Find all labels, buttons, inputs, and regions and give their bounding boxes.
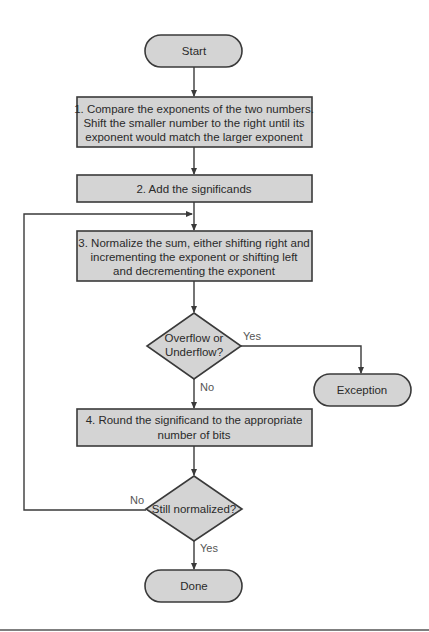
exception-terminator: Exception xyxy=(314,374,411,406)
decision1-line2: Underflow? xyxy=(165,346,223,358)
exception-label: Exception xyxy=(337,384,388,396)
step1-line3: exponent would match the larger exponent xyxy=(85,131,303,143)
step4-line1: 4. Round the significand to the appropri… xyxy=(86,414,303,426)
step1-line1: 1. Compare the exponents of the two numb… xyxy=(74,103,314,115)
decision-overflow: Overflow or Underflow? xyxy=(147,313,241,379)
decision1-no-label: No xyxy=(200,381,214,393)
decision1-line1: Overflow or xyxy=(165,332,224,344)
decision2-label: Still normalized? xyxy=(152,503,236,515)
decision1-yes-label: Yes xyxy=(243,330,261,342)
step1-line2: Shift the smaller number to the right un… xyxy=(83,117,304,129)
start-terminator: Start xyxy=(145,35,242,67)
step3-line1: 3. Normalize the sum, either shifting ri… xyxy=(78,237,309,249)
step1-process: 1. Compare the exponents of the two numb… xyxy=(74,97,314,147)
step3-line2: incrementing the exponent or shifting le… xyxy=(90,251,298,263)
flowchart: Start 1. Compare the exponents of the tw… xyxy=(0,0,429,632)
decision2-yes-label: Yes xyxy=(200,542,218,554)
step4-process: 4. Round the significand to the appropri… xyxy=(77,409,312,446)
step3-process: 3. Normalize the sum, either shifting ri… xyxy=(77,231,312,281)
start-label: Start xyxy=(182,45,207,57)
step2-label: 2. Add the significands xyxy=(136,183,251,195)
step2-process: 2. Add the significands xyxy=(77,175,312,202)
arrow-decision1-yes xyxy=(241,346,361,373)
done-terminator: Done xyxy=(145,570,242,602)
step4-line2: number of bits xyxy=(158,429,231,441)
done-label: Done xyxy=(180,580,208,592)
decision-still-normalized: Still normalized? xyxy=(146,476,242,541)
decision2-no-label: No xyxy=(130,494,144,506)
step3-line3: and decrementing the exponent xyxy=(113,265,276,277)
